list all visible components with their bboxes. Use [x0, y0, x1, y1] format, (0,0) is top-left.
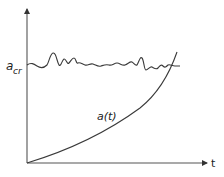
critical-threshold-subscript: cr [13, 66, 23, 76]
growth-curve-label: a(t) [97, 110, 117, 123]
diagram-canvas: t a cr a(t) [0, 0, 224, 177]
x-axis-label: t [211, 157, 216, 170]
critical-threshold-curve [27, 53, 180, 70]
